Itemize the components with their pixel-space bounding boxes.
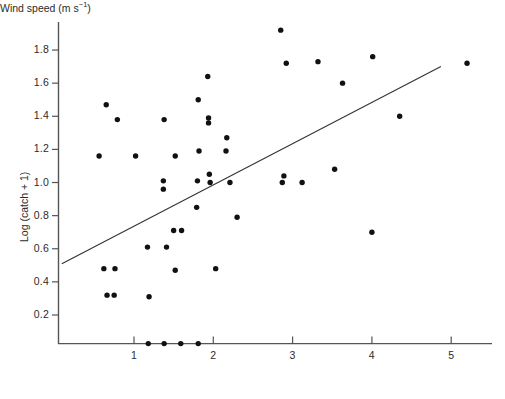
data-point: [161, 341, 166, 346]
x-tick-label: 3: [278, 349, 308, 361]
data-point: [179, 228, 184, 233]
x-tick-label: 5: [436, 349, 466, 361]
data-point: [171, 228, 176, 233]
data-point: [332, 167, 337, 172]
plot-canvas: [0, 0, 505, 399]
data-point: [207, 180, 212, 185]
data-point: [145, 244, 150, 249]
data-point: [234, 215, 239, 220]
data-point: [207, 172, 212, 177]
regression-line: [62, 67, 441, 264]
data-point: [111, 292, 116, 297]
data-point: [112, 266, 117, 271]
data-point: [205, 74, 210, 79]
y-tick-label: 0.2: [24, 308, 49, 320]
data-point: [133, 153, 138, 158]
data-point: [196, 341, 201, 346]
scatter-plot-figure: 0.20.40.60.81.01.21.41.61.8 12345 Log (c…: [0, 0, 505, 399]
y-tick-label: 1.4: [24, 109, 49, 121]
data-point: [370, 54, 375, 59]
data-point: [96, 153, 101, 158]
data-point: [281, 173, 286, 178]
data-point: [223, 148, 228, 153]
data-point: [278, 27, 283, 32]
data-point: [315, 59, 320, 64]
y-tick-label: 0.6: [24, 242, 49, 254]
data-point: [161, 178, 166, 183]
data-point: [161, 186, 166, 191]
data-point: [104, 102, 109, 107]
x-tick-label: 1: [119, 349, 149, 361]
x-tick-label: 2: [198, 349, 228, 361]
data-point: [213, 266, 218, 271]
data-point: [397, 114, 402, 119]
data-point: [224, 135, 229, 140]
y-axis-ticks: [52, 50, 59, 315]
data-point: [173, 153, 178, 158]
data-point: [369, 230, 374, 235]
y-tick-label: 1.6: [24, 76, 49, 88]
data-points: [96, 27, 469, 346]
x-axis-title-main: Wind speed (m s: [0, 2, 79, 14]
data-point: [280, 180, 285, 185]
data-point: [173, 268, 178, 273]
data-point: [196, 148, 201, 153]
data-point: [464, 61, 469, 66]
data-point: [101, 266, 106, 271]
data-point: [194, 205, 199, 210]
x-tick-label: 4: [357, 349, 387, 361]
data-point: [196, 97, 201, 102]
data-point: [146, 341, 151, 346]
data-point: [206, 115, 211, 120]
x-axis-title-tail: ): [87, 2, 91, 14]
y-tick-label: 1.2: [24, 142, 49, 154]
data-point: [299, 180, 304, 185]
data-point: [146, 294, 151, 299]
data-point: [115, 117, 120, 122]
data-point: [104, 292, 109, 297]
data-point: [178, 341, 183, 346]
y-axis-title: Log (catch + 1): [18, 172, 30, 242]
data-point: [195, 178, 200, 183]
data-point: [227, 180, 232, 185]
data-point: [206, 120, 211, 125]
data-point: [284, 61, 289, 66]
data-point: [164, 244, 169, 249]
y-tick-label: 0.4: [24, 275, 49, 287]
data-point: [340, 80, 345, 85]
y-tick-label: 1.8: [24, 43, 49, 55]
data-point: [161, 117, 166, 122]
x-axis-title: Wind speed (m s−1): [0, 0, 91, 14]
